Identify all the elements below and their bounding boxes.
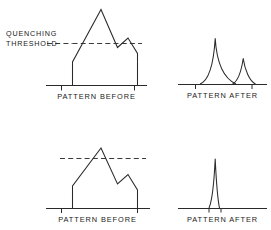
caption-pattern-after: PATTERN AFTER [187, 215, 258, 224]
caption-pattern-after: PATTERN AFTER [187, 91, 258, 100]
annotation-line-2: THRESHOLD [6, 39, 58, 48]
quenching-threshold-figure: PATTERN BEFORE QUENCHING THRESHOLD PATTE… [0, 0, 271, 230]
chart-top-after: PATTERN AFTER [178, 39, 267, 101]
chart-bottom-after: PATTERN AFTER [178, 159, 267, 224]
annotation-line-1: QUENCHING [6, 29, 57, 38]
signal-trace-before [73, 10, 138, 86]
chart-bottom-before: PATTERN BEFORE [46, 148, 150, 224]
figure-container: PATTERN BEFORE QUENCHING THRESHOLD PATTE… [0, 0, 271, 230]
spike-peak-1 [209, 159, 220, 208]
quenching-threshold-annotation: QUENCHING THRESHOLD [6, 29, 58, 48]
caption-pattern-before: PATTERN BEFORE [57, 92, 135, 101]
caption-pattern-before: PATTERN BEFORE [58, 215, 136, 224]
spike-peak-1 [200, 39, 236, 85]
signal-trace-before [73, 148, 138, 208]
spike-peak-2 [233, 59, 256, 85]
chart-top-before: PATTERN BEFORE [46, 10, 147, 102]
